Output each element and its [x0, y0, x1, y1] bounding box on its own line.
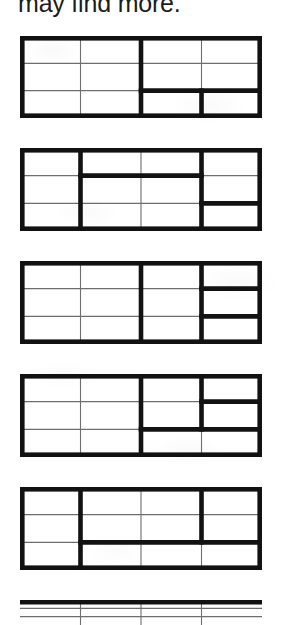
grid-figure-5-canvas [20, 487, 262, 570]
grid-figure-2 [20, 148, 262, 231]
grid-figure-4-canvas [20, 374, 262, 457]
grid-figure-list [0, 0, 290, 625]
grid-figure-1-canvas [20, 36, 262, 118]
grid-figure-2-canvas [20, 148, 262, 231]
grid-figure-6-canvas [20, 600, 262, 625]
grid-figure-4 [20, 374, 262, 457]
grid-figure-6 [20, 600, 262, 625]
grid-figure-5 [20, 487, 262, 570]
grid-figure-3 [20, 261, 262, 344]
grid-figure-3-canvas [20, 261, 262, 344]
grid-figure-1 [20, 36, 262, 118]
